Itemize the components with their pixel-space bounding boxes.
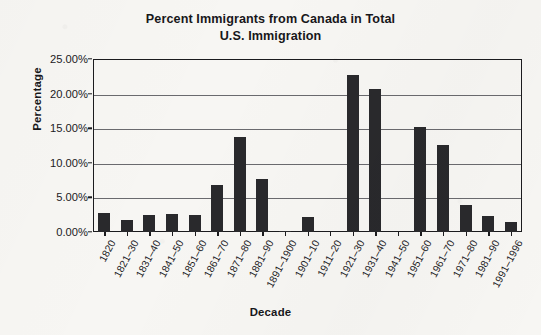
- y-axis-tick-label: 5.00%: [28, 191, 88, 203]
- bar: [414, 127, 426, 232]
- y-axis-tick-group: 0.00%5.00%10.00%15.00%20.00%25.00%: [25, 59, 88, 232]
- chart-title-line-1: Percent Immigrants from Canada in Total: [146, 12, 395, 26]
- bar: [143, 215, 155, 232]
- bar: [189, 215, 201, 232]
- y-axis-tick-mark: [88, 93, 92, 94]
- x-axis-tick-mark: [375, 232, 376, 236]
- y-axis-tick-mark: [88, 197, 92, 198]
- bar: [166, 214, 178, 232]
- bar: [234, 137, 246, 232]
- y-axis-tick-mark: [88, 162, 92, 163]
- bar: [369, 89, 381, 232]
- x-axis-tick-mark: [195, 232, 196, 236]
- x-axis-label-group: 18201821–301831–401841–501851–601861–701…: [93, 238, 522, 304]
- x-axis-tick-mark: [240, 232, 241, 236]
- bar: [211, 185, 223, 232]
- y-axis-tick-label: 15.00%: [28, 122, 88, 134]
- bar: [505, 222, 517, 232]
- y-axis-tick-mark: [88, 127, 92, 128]
- x-axis-tick-mark: [104, 232, 105, 236]
- x-axis-tick-mark: [511, 232, 512, 236]
- x-axis-tick-mark: [127, 232, 128, 236]
- x-axis-tick-mark: [466, 232, 467, 236]
- x-axis-tick-mark: [149, 232, 150, 236]
- x-axis-tick-mark: [443, 232, 444, 236]
- x-axis-tick-mark: [217, 232, 218, 236]
- bar: [460, 205, 472, 232]
- bar: [256, 179, 268, 232]
- y-axis-tick-label: 0.00%: [28, 226, 88, 238]
- x-axis-title: Decade: [0, 306, 541, 318]
- x-axis-tick-mark: [285, 232, 286, 236]
- bar: [121, 220, 133, 232]
- bar: [347, 75, 359, 232]
- bar: [437, 145, 449, 232]
- bar: [98, 213, 110, 232]
- x-axis-tick-mark: [172, 232, 173, 236]
- x-axis-tick-label: 1820: [97, 238, 118, 264]
- x-axis-tick-mark: [353, 232, 354, 236]
- x-axis-tick-mark: [420, 232, 421, 236]
- y-axis-tick-label: 20.00%: [28, 88, 88, 100]
- chart-title: Percent Immigrants from Canada in Total …: [0, 11, 541, 44]
- bar-chart-figure: Percent Immigrants from Canada in Total …: [0, 0, 541, 335]
- y-axis-tick-label: 25.00%: [28, 53, 88, 65]
- bar: [482, 216, 494, 232]
- y-axis-tick-mark: [88, 231, 92, 232]
- x-axis-tick-mark: [398, 232, 399, 236]
- x-axis-tick-mark: [262, 232, 263, 236]
- chart-title-line-2: U.S. Immigration: [0, 28, 541, 45]
- bar: [302, 217, 314, 232]
- x-axis-tick-mark: [330, 232, 331, 236]
- y-axis-tick-label: 10.00%: [28, 157, 88, 169]
- x-axis-tick-mark: [308, 232, 309, 236]
- x-axis-tick-mark: [488, 232, 489, 236]
- bars-layer: [93, 59, 522, 232]
- y-axis-tick-mark: [88, 58, 92, 59]
